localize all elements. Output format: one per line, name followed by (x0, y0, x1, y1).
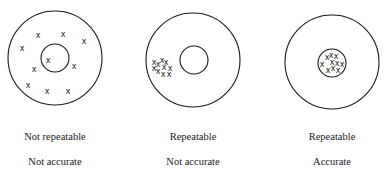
repeatability-label: Repeatable (267, 131, 390, 143)
accuracy-label: Accurate (267, 156, 390, 168)
accuracy-repeatability-diagram: xxxxxxxxxxxxxxxxxxxxxxxxxxxxxx (0, 0, 390, 181)
accuracy-label: Not accurate (0, 156, 120, 168)
shot-mark-icon: x (26, 81, 31, 90)
shot-mark-icon: x (82, 37, 87, 46)
shot-mark-icon: x (61, 30, 66, 39)
shot-mark-icon: x (72, 62, 77, 71)
target-repeatable-not-accurate: xxxxxxxxxx (146, 13, 240, 107)
shot-mark-icon: x (320, 60, 325, 69)
repeatability-label: Repeatable (128, 131, 258, 143)
accuracy-label: Not accurate (128, 156, 258, 168)
shot-mark-icon: x (45, 87, 50, 96)
bullseye-ring (180, 46, 208, 74)
shot-mark-icon: x (46, 56, 51, 65)
target-repeatable-accurate: xxxxxxxxxx (285, 15, 379, 109)
shot-mark-icon: x (66, 87, 71, 96)
target-not-repeatable-not-accurate: xxxxxxxxxx (8, 11, 102, 105)
shot-mark-icon: x (20, 44, 25, 53)
repeatability-label: Not repeatable (0, 131, 120, 143)
shot-mark-icon: x (167, 70, 172, 79)
shot-mark-icon: x (336, 66, 341, 75)
outer-ring (8, 11, 102, 105)
shot-mark-icon: x (161, 70, 166, 79)
shot-mark-icon: x (340, 60, 345, 69)
shot-mark-icon: x (36, 31, 41, 40)
shot-mark-icon: x (32, 65, 37, 74)
